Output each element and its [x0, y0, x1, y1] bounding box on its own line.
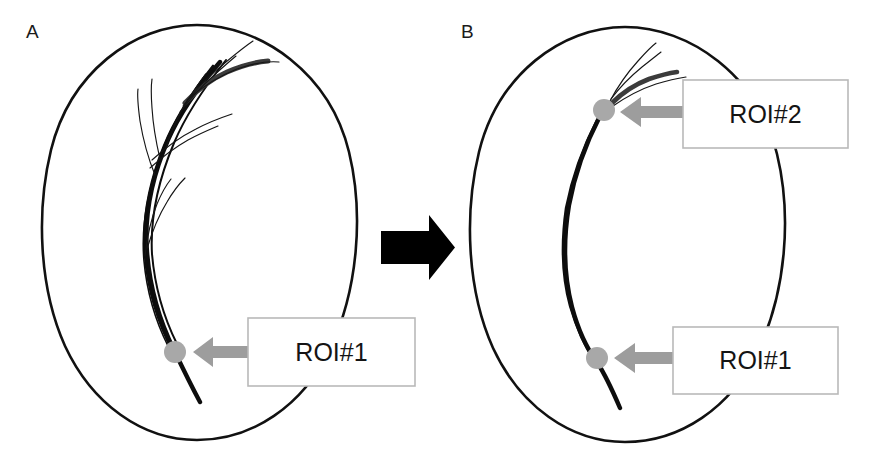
black-right-arrow-icon	[381, 215, 455, 280]
panel-a-fiber-thick-upper	[185, 61, 268, 103]
panel-a-fiber-5	[151, 79, 160, 159]
panel-b-roi2-box-label: ROI#2	[729, 100, 801, 128]
panel-b-roi1-arrow	[614, 343, 673, 373]
panel-a-roi1-box[interactable]: ROI#1	[248, 318, 415, 386]
panel-b: B ROI#2	[461, 21, 848, 442]
panel-a: A	[26, 21, 415, 440]
transition-arrow	[381, 215, 455, 280]
panel-a-label: A	[26, 21, 39, 42]
panel-b-roi1-box[interactable]: ROI#1	[673, 327, 838, 394]
panel-b-roi2-arrow	[620, 97, 683, 127]
figure-root: A	[0, 0, 871, 451]
panel-b-roi1-dot[interactable]	[586, 347, 608, 369]
panel-a-fiber-6	[138, 89, 155, 175]
panel-b-roi2-dot[interactable]	[593, 99, 615, 121]
panel-b-tract-strand	[563, 120, 597, 360]
panel-b-fiber-thick	[612, 72, 677, 103]
panel-a-roi1-box-label: ROI#1	[295, 338, 367, 366]
panel-b-roi2-box[interactable]: ROI#2	[683, 80, 848, 148]
panel-b-label: B	[461, 21, 474, 42]
panel-b-roi1-box-label: ROI#1	[719, 346, 791, 374]
panel-a-roi1-arrow	[193, 337, 248, 367]
panel-a-roi1-dot[interactable]	[164, 341, 186, 363]
figure-canvas: A	[0, 0, 871, 451]
